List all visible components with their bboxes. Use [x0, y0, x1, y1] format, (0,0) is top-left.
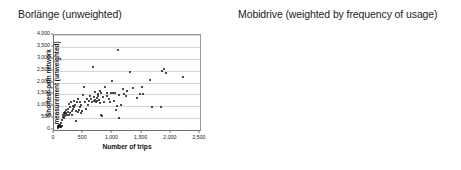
x-tick-label: 500 [78, 135, 87, 140]
gridline-left [54, 83, 200, 84]
plot-area-left [53, 34, 201, 131]
data-point [73, 106, 75, 108]
data-point [115, 109, 117, 111]
data-point [67, 108, 69, 110]
x-tick-mark [199, 131, 200, 133]
data-point [108, 98, 110, 100]
data-point [87, 104, 89, 106]
data-point [117, 49, 119, 51]
data-point [139, 93, 141, 95]
data-point [122, 88, 124, 90]
data-point [80, 112, 82, 114]
data-point [136, 97, 138, 99]
data-point [88, 100, 90, 102]
data-point [83, 86, 85, 88]
data-point [142, 93, 144, 95]
data-point [132, 87, 134, 89]
x-tick-label: 1,000 [105, 135, 118, 140]
data-point [78, 109, 80, 111]
data-point [101, 115, 103, 117]
data-point [85, 108, 87, 110]
data-point [74, 104, 76, 106]
x-tick-mark [82, 131, 83, 133]
data-point [118, 117, 120, 119]
data-point [77, 111, 79, 113]
gridline-left [54, 47, 200, 48]
data-point [141, 86, 143, 88]
data-point [106, 92, 108, 94]
plot-wrap-left: 05001,0001,5002,0002,5003,0003,5004,0000… [53, 34, 201, 131]
data-point [90, 98, 92, 100]
x-tick-label: 2,000 [163, 135, 176, 140]
gridline-left [54, 94, 200, 95]
data-point [163, 68, 165, 70]
x-axis-label-left: Number of trips [53, 143, 201, 150]
data-point [79, 106, 81, 108]
y-axis-label-line: Shortest-path network [45, 35, 53, 131]
data-point [103, 101, 105, 103]
data-point [71, 114, 73, 116]
data-point [70, 101, 72, 103]
data-point [125, 95, 127, 97]
data-point [100, 92, 102, 94]
data-point [79, 101, 81, 103]
data-point [73, 100, 75, 102]
data-point [182, 76, 184, 78]
data-point [114, 92, 116, 94]
figure-scatter-panels: Borlänge (unweighted) 05001,0001,5002,00… [0, 0, 461, 170]
x-tick-label: 1,500 [134, 135, 147, 140]
gridline-left [54, 71, 200, 72]
data-point [120, 104, 122, 106]
x-tick-label: 0 [52, 135, 55, 140]
data-point [165, 72, 167, 74]
data-point [160, 106, 162, 108]
data-point [75, 120, 77, 122]
data-point [116, 105, 118, 107]
gridline-left [54, 59, 200, 60]
data-point [102, 96, 104, 98]
data-point [92, 66, 94, 68]
data-point [82, 94, 84, 96]
data-point [81, 110, 83, 112]
data-point [104, 86, 106, 88]
data-point [98, 99, 100, 101]
x-tick-mark [111, 131, 112, 133]
data-point [63, 117, 65, 119]
x-tick-mark [169, 131, 170, 133]
data-point [113, 100, 115, 102]
data-point [80, 104, 82, 106]
data-point [106, 95, 108, 97]
x-tick-mark [140, 131, 141, 133]
data-point [68, 114, 70, 116]
data-point [129, 71, 131, 73]
data-point [126, 90, 128, 92]
x-tick-mark [53, 131, 54, 133]
data-point [118, 94, 120, 96]
panel-title-left: Borlänge (unweighted) [4, 8, 230, 20]
panel-borlange: Borlänge (unweighted) 05001,0001,5002,00… [0, 0, 230, 170]
data-point [61, 119, 63, 121]
data-point [151, 106, 153, 108]
data-point [97, 95, 99, 97]
data-point [111, 80, 113, 82]
panel-mobidrive: Mobidrive (weighted by frequency of usag… [230, 0, 460, 170]
data-point [84, 101, 86, 103]
gridline-left [54, 106, 200, 107]
y-axis-label-line: measurement (unweighted) [53, 35, 61, 131]
x-tick-label: 2,500 [193, 135, 206, 140]
data-point [71, 110, 73, 112]
panel-title-right: Mobidrive (weighted by frequency of usag… [230, 8, 460, 20]
gridline-left [54, 35, 200, 36]
data-point [149, 79, 151, 81]
data-point [109, 101, 111, 103]
y-axis-label-left: Shortest-path networkmeasurement (unweig… [45, 35, 61, 131]
data-point [99, 102, 101, 104]
data-point [68, 103, 70, 105]
